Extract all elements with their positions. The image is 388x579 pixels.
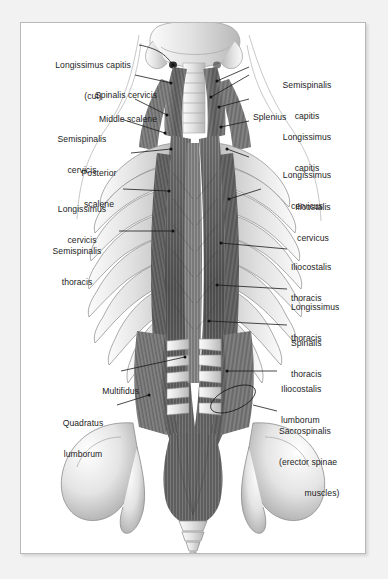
label-quadratus-lumborum: Quadratus lumborum bbox=[35, 397, 131, 480]
label-semispinalis-thoracis: Semispinalis thoracis bbox=[21, 225, 133, 308]
sacrum bbox=[164, 433, 223, 525]
figure-stage: Longissimus capitis (cut) Spinalis cervi… bbox=[0, 0, 388, 579]
occiput-skull-base bbox=[146, 23, 243, 69]
coccyx bbox=[179, 521, 207, 553]
illustration-panel: Longissimus capitis (cut) Spinalis cervi… bbox=[20, 22, 366, 554]
label-sacrospinalis: Sacrospinalis (erector spinae muscles) bbox=[279, 405, 365, 519]
cervical-vertebrae bbox=[183, 63, 205, 133]
